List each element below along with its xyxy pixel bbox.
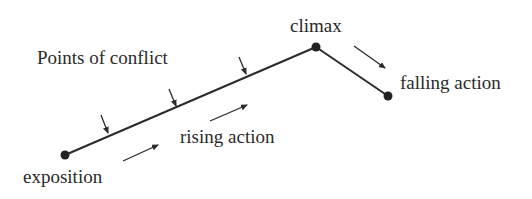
rising-arrow-icon	[210, 105, 247, 121]
falling-end-node	[384, 92, 393, 101]
climax-node	[312, 43, 321, 52]
conflict-arrow-icon	[101, 115, 108, 133]
rising-action-label: rising action	[180, 127, 274, 146]
falling-action-label: falling action	[400, 73, 501, 92]
exposition-label: exposition	[23, 167, 102, 186]
climax-label: climax	[290, 16, 342, 35]
exposition-node	[61, 151, 70, 160]
falling-arrow-icon	[354, 46, 385, 68]
conflict-arrow-icon	[239, 57, 246, 74]
conflict-arrow-icon	[169, 89, 176, 106]
rising-arrow-icon	[123, 145, 158, 161]
falling-line	[316, 47, 388, 96]
points-of-conflict-label: Points of conflict	[37, 48, 168, 67]
